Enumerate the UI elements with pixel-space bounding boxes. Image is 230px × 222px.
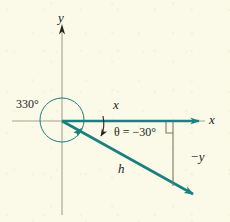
- negative-y-label: −y: [190, 150, 205, 163]
- trigonometry-diagram: y x 330° x θ = −30° −y h: [0, 0, 230, 222]
- h-label: h: [118, 162, 125, 175]
- coterminal-angle-label: 330°: [16, 98, 39, 110]
- theta-angle-arrow: [101, 116, 104, 136]
- right-angle-marker: [166, 122, 173, 133]
- x-axis-label: x: [209, 113, 215, 126]
- x-component-label: x: [113, 98, 119, 111]
- theta-label: θ = −30°: [114, 126, 156, 138]
- y-axis-label: y: [58, 11, 64, 24]
